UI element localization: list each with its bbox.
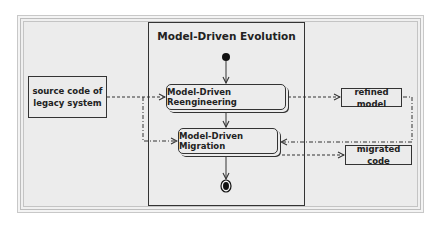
migrated-code-box: migrated code bbox=[345, 145, 412, 165]
legacy-source-box: source code of legacy system bbox=[28, 76, 107, 118]
legacy-label-line2: legacy system bbox=[33, 97, 101, 109]
migrated-code-label: migrated code bbox=[346, 143, 411, 167]
migration-label: Model-Driven Migration bbox=[179, 131, 277, 151]
final-node bbox=[221, 180, 231, 192]
diagram-canvas: Model-Driven Evolution source code of bbox=[0, 0, 440, 230]
refined-model-label: refined model bbox=[342, 86, 401, 110]
reengineering-activity: Model-Driven Reengineering bbox=[166, 84, 286, 110]
legacy-label-line1: source code of bbox=[32, 85, 102, 97]
migration-activity: Model-Driven Migration bbox=[178, 128, 278, 154]
initial-node bbox=[222, 53, 230, 61]
reengineering-label: Model-Driven Reengineering bbox=[167, 87, 285, 107]
refined-model-box: refined model bbox=[341, 88, 402, 107]
